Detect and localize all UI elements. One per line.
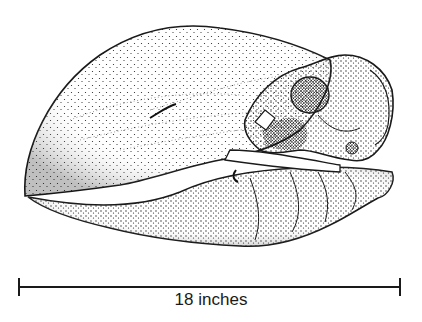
whale-head-drawing [0, 0, 422, 270]
stipple-illustration [0, 0, 422, 270]
scale-label: 18 inches [0, 290, 422, 310]
scale-bar-group: 18 inches [0, 270, 422, 322]
scale-bar [19, 286, 400, 288]
